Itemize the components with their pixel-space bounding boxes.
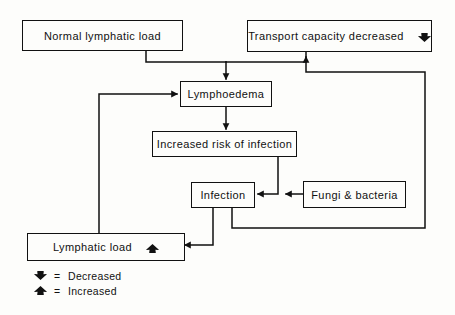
- increased-arrow-icon: [34, 286, 54, 295]
- legend-label: Increased: [68, 285, 117, 297]
- node-fungi-and-bacteria[interactable]: Fungi & bacteria: [303, 181, 406, 208]
- edge-transport-to-bus: [226, 52, 306, 62]
- increased-arrow-icon: [146, 244, 159, 253]
- node-transport-capacity-decreased[interactable]: Transport capacity decreased: [247, 20, 432, 52]
- node-label: Infection: [200, 189, 245, 201]
- edge-normal-load-to-bus: [146, 51, 226, 62]
- edge-risk-to-infection: [258, 157, 278, 194]
- decreased-arrow-icon: [34, 271, 54, 280]
- node-lymphoedema[interactable]: Lymphoedema: [180, 81, 272, 107]
- node-label: Lymphoedema: [188, 88, 265, 100]
- legend-equals-sign: =: [54, 270, 68, 282]
- node-infection[interactable]: Infection: [191, 182, 255, 208]
- flow-chart-diagram: Normal lymphatic load Transport capacity…: [0, 0, 455, 315]
- legend-equals-sign: =: [54, 285, 68, 297]
- node-normal-lymphatic-load[interactable]: Normal lymphatic load: [22, 20, 183, 51]
- node-label: Transport capacity decreased: [248, 30, 404, 42]
- node-label: Normal lymphatic load: [44, 30, 161, 42]
- legend: = Decreased = Increased: [34, 268, 121, 298]
- node-label: Lymphatic load: [53, 241, 132, 253]
- edge-lymphatic-load-to-lymphoedema: [99, 94, 177, 234]
- legend-item-decreased: = Decreased: [34, 268, 121, 283]
- node-label: Fungi & bacteria: [311, 189, 398, 201]
- legend-label: Decreased: [68, 270, 121, 282]
- edge-infection-to-lymphatic-load: [185, 208, 213, 245]
- node-increased-risk-of-infection[interactable]: Increased risk of infection: [152, 131, 297, 157]
- decreased-arrow-icon: [418, 33, 431, 42]
- node-label: Increased risk of infection: [157, 138, 293, 150]
- legend-item-increased: = Increased: [34, 283, 121, 298]
- node-lymphatic-load[interactable]: Lymphatic load: [27, 233, 185, 261]
